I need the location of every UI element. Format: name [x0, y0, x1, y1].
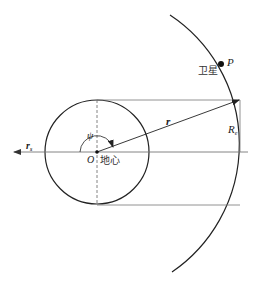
earth-radius-label: Re: [228, 124, 237, 136]
earth-radius-symbol: R: [228, 123, 235, 135]
satellite-point: [218, 61, 224, 67]
earth-radius-subscript: e: [235, 130, 238, 136]
satellite-label: 卫星: [198, 66, 218, 76]
psi-angle-label: ψ: [87, 131, 93, 141]
radius-vector-label: r: [166, 116, 170, 127]
satellite-orbit-arc: [170, 15, 239, 272]
sun-vector-label: rs: [26, 141, 32, 152]
point-p-label: P: [227, 57, 234, 68]
earth-center-label: 地心: [100, 156, 120, 166]
earth-center-dot: [95, 150, 99, 154]
sun-vector-subscript: s: [30, 146, 32, 152]
origin-label: O: [87, 155, 94, 165]
psi-angle-arc: [80, 136, 113, 152]
satellite-shadow-diagram: [0, 0, 261, 304]
